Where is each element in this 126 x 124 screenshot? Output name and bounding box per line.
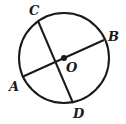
label-o: O (66, 60, 78, 75)
label-b: B (107, 29, 119, 44)
circle-diagram: C B A O D (0, 0, 126, 124)
label-c: C (29, 3, 40, 18)
label-a: A (7, 79, 19, 94)
label-d: D (72, 106, 85, 121)
